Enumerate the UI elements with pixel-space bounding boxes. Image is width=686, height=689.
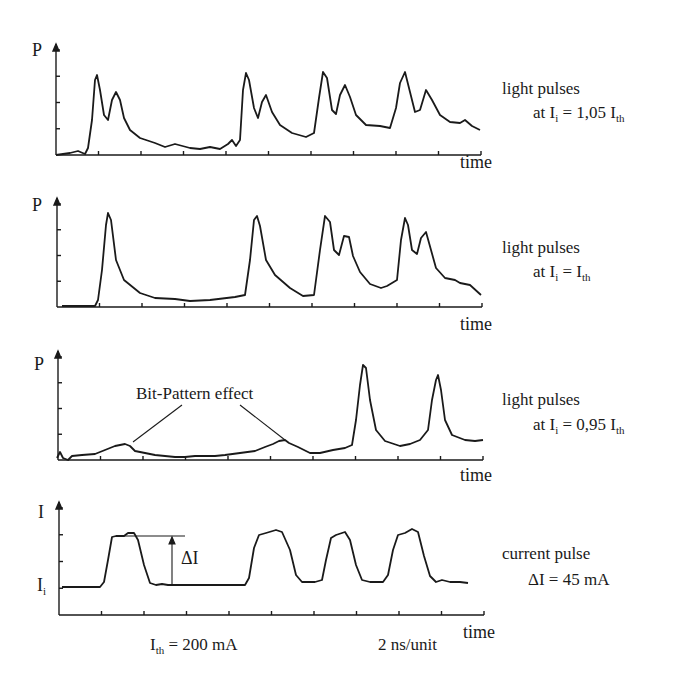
annotation-p2-line1: light pulses (502, 238, 580, 258)
annotation-p3-line1: light pulses (502, 390, 580, 410)
annotation-p1-line1: light pulses (502, 79, 580, 99)
signal-curve-p2 (62, 213, 481, 306)
annotation-p4-line1: current pulse (502, 544, 590, 564)
baseline-label-ii: Ii (37, 575, 46, 597)
y-axis-label-p2: P (32, 195, 42, 216)
x-axis-label-p3: time (460, 465, 492, 486)
signal-curve-p3 (57, 365, 483, 460)
threshold-current-label: Ith = 200 mA (150, 635, 238, 660)
annotation-p2-line2: at Ii = Ith (533, 262, 591, 287)
callout-line-left (133, 405, 182, 442)
y-axis-label-p3: P (34, 354, 44, 375)
annotation-p1-line2: at Ii = 1,05 Ith (533, 103, 625, 128)
y-axis-label-p1: P (32, 40, 42, 61)
x-axis-label-p4: time (463, 622, 495, 643)
annotation-p4-line2: ΔI = 45 mA (528, 570, 609, 590)
x-axis-label-p1: time (460, 152, 492, 173)
x-axis-label-p2: time (460, 314, 492, 335)
bit-pattern-callout: Bit-Pattern effect (136, 384, 253, 404)
signal-curve-p4 (62, 529, 468, 587)
y-axis-label-p4: I (38, 502, 44, 523)
time-scale-label: 2 ns/unit (378, 635, 437, 655)
annotation-p3-line2: at Ii = 0,95 Ith (533, 415, 625, 440)
delta-i-label: ΔI (181, 548, 199, 568)
callout-line-right (240, 405, 285, 440)
signal-curve-p1 (56, 72, 480, 155)
delta-i-arrow-icon (169, 537, 175, 544)
